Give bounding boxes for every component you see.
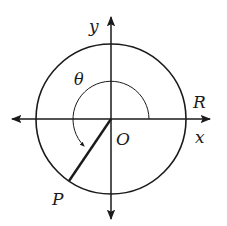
y-axis-label: y xyxy=(88,16,99,36)
ray-op xyxy=(69,119,111,181)
unit-circle-diagram: y θ R x O P xyxy=(0,0,227,226)
angle-label: θ xyxy=(74,70,84,89)
point-r-label: R xyxy=(192,92,206,112)
origin-label: O xyxy=(116,129,130,149)
diagram-canvas: y θ R x O P xyxy=(0,0,227,226)
point-p-label: P xyxy=(51,189,64,209)
x-axis-label: x xyxy=(195,127,205,147)
